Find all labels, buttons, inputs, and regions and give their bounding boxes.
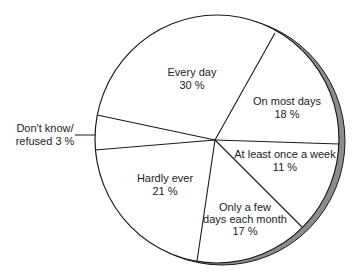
value-few-days: 17 %: [232, 225, 257, 237]
label-few-days-2: days each month: [203, 213, 287, 225]
value-on-most-days: 18 %: [274, 108, 299, 120]
value-every-day: 30 %: [179, 79, 204, 91]
label-dont-know: Don't know/: [16, 122, 74, 134]
pie-body: [95, 15, 339, 263]
label-hardly-ever: Hardly ever: [137, 172, 194, 184]
value-once-a-week: 11 %: [273, 161, 297, 173]
label-every-day: Every day: [168, 66, 217, 78]
value-hardly-ever: 21 %: [152, 185, 177, 197]
pie-chart: Every day 30 % On most days 18 % At leas…: [0, 0, 362, 278]
value-dont-know: refused 3 %: [16, 135, 75, 147]
label-on-most-days: On most days: [253, 95, 321, 107]
label-few-days-1: Only a few: [219, 201, 271, 213]
label-once-a-week: At least once a week: [234, 148, 336, 160]
